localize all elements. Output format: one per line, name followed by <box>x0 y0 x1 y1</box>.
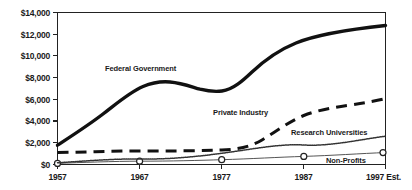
y-axis-label-6000: $6,000 <box>0 95 50 105</box>
series-label-private-industry: Private Industry <box>213 108 268 117</box>
y-axis-label-10000: $10,000 <box>0 51 50 61</box>
y-axis-label-8000: $8,000 <box>0 73 50 83</box>
x-axis-label-1967: 1967 <box>117 172 162 182</box>
marker-1997 <box>380 150 386 156</box>
marker-1987 <box>301 153 307 159</box>
y-axis-label-14000: $14,000 <box>0 8 50 18</box>
y-axis-ticks <box>53 13 57 165</box>
x-axis-label-1997: 1997 Est. <box>355 172 412 182</box>
x-axis-label-1977: 1977 <box>199 172 244 182</box>
plot-frame <box>57 12 386 165</box>
series-label-federal-government: Federal Government <box>105 64 176 73</box>
y-axis-label-2000: $2,000 <box>0 138 50 148</box>
series-label-research-universities: Research Universities <box>291 128 367 137</box>
series-private-industry <box>58 99 386 153</box>
line-chart: $14,000 $12,000 $10,000 $8,000 $6,000 $4… <box>0 0 412 190</box>
marker-1977 <box>219 157 225 163</box>
y-axis-label-12000: $12,000 <box>0 30 50 40</box>
private-industry-line <box>58 99 386 153</box>
series-label-non-profits: Non-Profits <box>326 156 366 165</box>
y-axis-label-4000: $4,000 <box>0 116 50 126</box>
x-axis-label-1957: 1957 <box>35 172 80 182</box>
x-axis-label-1987: 1987 <box>281 172 326 182</box>
y-axis-label-0: $0 <box>0 160 50 170</box>
